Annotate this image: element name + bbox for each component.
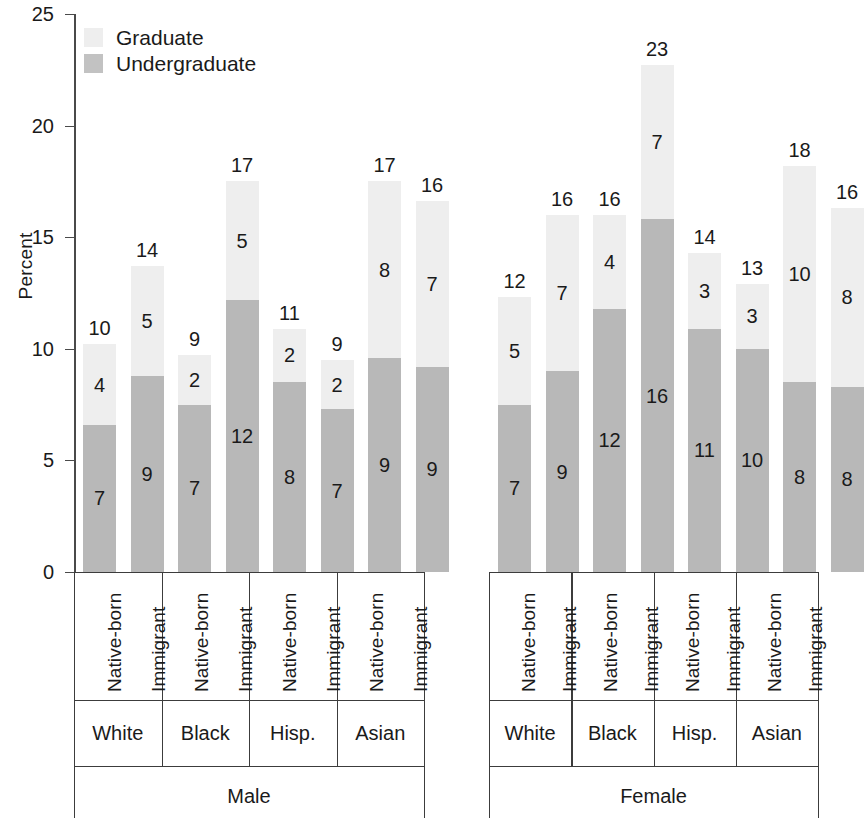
race-label-hisp: Hisp.	[654, 722, 736, 745]
bar-female-white-immigrant: 79	[546, 215, 579, 572]
segment-graduate: 8	[368, 181, 401, 357]
origin-label-immigrant: Immigrant	[559, 607, 581, 692]
sex-label-male: Male	[74, 785, 424, 808]
segment-graduate: 4	[593, 215, 626, 309]
segment-undergraduate: 12	[593, 309, 626, 572]
segment-graduate: 4	[83, 344, 116, 424]
segment-graduate-label: 5	[509, 341, 520, 361]
segment-undergraduate: 11	[688, 329, 721, 572]
segment-undergraduate: 9	[416, 367, 449, 572]
origin-label-native-born: Native-born	[191, 593, 213, 692]
y-axis-title: Percent	[15, 196, 37, 336]
segment-graduate: 7	[546, 215, 579, 371]
bar-total-label: 13	[736, 258, 769, 278]
legend-item-graduate: Graduate	[84, 24, 256, 50]
segment-undergraduate: 8	[831, 387, 864, 572]
y-tick-mark-10	[65, 349, 74, 350]
segment-graduate-label: 7	[426, 274, 437, 294]
race-label-black: Black	[162, 722, 250, 745]
bar-male-white-immigrant: 59	[131, 266, 164, 572]
block-border-left-female	[489, 572, 490, 818]
segment-undergraduate-label: 8	[284, 467, 295, 487]
bar-total-label: 12	[498, 271, 531, 291]
segment-graduate: 5	[226, 181, 259, 299]
origin-label-immigrant: Immigrant	[641, 607, 663, 692]
legend-label-undergraduate: Undergraduate	[116, 53, 256, 74]
bar-total-label: 14	[131, 240, 164, 260]
origin-label-immigrant: Immigrant	[235, 607, 257, 692]
race-label-black: Black	[571, 722, 653, 745]
bar-male-asian-immigrant: 79	[416, 201, 449, 572]
segment-graduate: 7	[641, 65, 674, 219]
segment-graduate: 2	[321, 360, 354, 409]
segment-graduate: 5	[498, 297, 531, 404]
y-tick-mark-0	[65, 572, 74, 573]
segment-graduate-label: 10	[788, 264, 810, 284]
segment-undergraduate-label: 8	[794, 467, 805, 487]
segment-undergraduate: 16	[641, 219, 674, 572]
segment-undergraduate: 10	[736, 349, 769, 572]
bar-female-black-native-born: 412	[593, 215, 626, 572]
legend-swatch-graduate	[84, 28, 103, 47]
y-tick-label-10: 10	[8, 339, 54, 359]
y-tick-label-15: 15	[8, 227, 54, 247]
race-label-white: White	[489, 722, 571, 745]
bar-total-label: 18	[783, 140, 816, 160]
y-tick-label-0: 0	[8, 562, 54, 582]
bar-male-hisp-native-born: 28	[273, 329, 306, 572]
race-row-divider-male	[74, 766, 424, 767]
race-label-white: White	[74, 722, 162, 745]
segment-graduate: 10	[783, 166, 816, 383]
bar-total-label: 16	[416, 175, 449, 195]
segment-undergraduate: 12	[226, 300, 259, 572]
segment-undergraduate: 9	[546, 371, 579, 572]
segment-undergraduate-label: 7	[509, 478, 520, 498]
segment-graduate: 2	[273, 329, 306, 383]
bar-female-white-native-born: 57	[498, 297, 531, 572]
race-label-hisp: Hisp.	[249, 722, 337, 745]
segment-undergraduate-label: 11	[694, 440, 715, 460]
race-row-divider-female	[489, 766, 818, 767]
legend-label-graduate: Graduate	[116, 27, 204, 48]
segment-graduate: 3	[688, 253, 721, 329]
segment-undergraduate-label: 12	[598, 430, 620, 450]
segment-graduate-label: 4	[604, 252, 615, 272]
segment-graduate: 8	[831, 208, 864, 387]
race-label-asian: Asian	[736, 722, 818, 745]
bar-female-hisp-immigrant: 310	[736, 284, 769, 572]
sex-label-female: Female	[489, 785, 818, 808]
origin-label-native-born: Native-born	[682, 593, 704, 692]
origin-label-immigrant: Immigrant	[323, 607, 345, 692]
origin-label-immigrant: Immigrant	[805, 607, 827, 692]
segment-undergraduate: 8	[783, 382, 816, 572]
segment-undergraduate: 8	[273, 382, 306, 572]
segment-undergraduate-label: 9	[556, 462, 567, 482]
bar-male-black-native-born: 27	[178, 355, 211, 572]
bar-male-white-native-born: 47	[83, 344, 116, 572]
segment-undergraduate-label: 8	[841, 469, 852, 489]
segment-graduate: 3	[736, 284, 769, 349]
bar-total-label: 17	[368, 155, 401, 175]
origin-label-native-born: Native-born	[104, 593, 126, 692]
segment-graduate: 2	[178, 355, 211, 404]
segment-graduate-label: 4	[94, 375, 105, 395]
bar-male-hisp-immigrant: 27	[321, 360, 354, 572]
segment-undergraduate-label: 12	[231, 426, 253, 446]
segment-undergraduate: 7	[178, 405, 211, 572]
segment-graduate-label: 2	[284, 345, 295, 365]
segment-graduate: 5	[131, 266, 164, 375]
bar-total-label: 9	[178, 329, 211, 349]
y-tick-mark-5	[65, 460, 74, 461]
bar-total-label: 11	[273, 303, 306, 323]
origin-label-native-born: Native-born	[279, 593, 301, 692]
bar-male-asian-native-born: 89	[368, 181, 401, 572]
segment-undergraduate: 7	[321, 409, 354, 572]
segment-graduate-label: 7	[556, 283, 567, 303]
y-tick-label-25: 25	[8, 4, 54, 24]
segment-undergraduate: 7	[83, 425, 116, 572]
segment-undergraduate-label: 9	[426, 459, 437, 479]
segment-undergraduate-label: 7	[331, 481, 342, 501]
segment-undergraduate-label: 7	[189, 478, 200, 498]
y-axis-line	[74, 14, 76, 573]
segment-undergraduate: 9	[368, 358, 401, 572]
